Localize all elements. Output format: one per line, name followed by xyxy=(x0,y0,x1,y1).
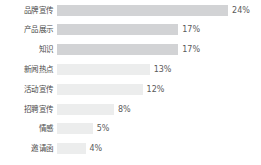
bar-track xyxy=(57,104,114,115)
bar-value-label: 5% xyxy=(97,123,110,134)
bar-track xyxy=(57,24,178,35)
bar-value-label: 24% xyxy=(232,5,250,16)
bar-value-label: 17% xyxy=(182,44,200,55)
bar-value-label: 8% xyxy=(118,104,131,115)
bar-value-label: 12% xyxy=(147,84,165,95)
bar-track xyxy=(57,143,86,154)
category-label: 品牌宣传 xyxy=(0,5,53,17)
category-label: 产品展示 xyxy=(0,24,53,36)
category-label: 知识 xyxy=(0,44,53,56)
bar-track xyxy=(57,5,228,16)
bar-row: 情感5% xyxy=(0,123,261,135)
bar-track xyxy=(57,44,178,55)
bar-row: 产品展示17% xyxy=(0,24,261,36)
bar-row: 新闻热点13% xyxy=(0,64,261,76)
category-label: 情感 xyxy=(0,123,53,135)
bar xyxy=(57,84,143,95)
bar xyxy=(57,143,86,154)
bar-row: 知识17% xyxy=(0,44,261,56)
bar-row: 邀请函4% xyxy=(0,143,261,155)
category-label: 邀请函 xyxy=(0,143,53,155)
bar xyxy=(57,104,114,115)
bar-value-label: 4% xyxy=(90,143,103,154)
bar xyxy=(57,123,93,134)
bar xyxy=(57,44,178,55)
bar-row: 品牌宣传24% xyxy=(0,5,261,17)
bar-row: 活动宣传12% xyxy=(0,84,261,96)
bar-track xyxy=(57,84,143,95)
bar xyxy=(57,64,150,75)
horizontal-bar-chart: 品牌宣传24%产品展示17%知识17%新闻热点13%活动宣传12%招聘宣传8%情… xyxy=(0,0,261,165)
bar xyxy=(57,5,228,16)
bar-row: 招聘宣传8% xyxy=(0,104,261,116)
category-label: 招聘宣传 xyxy=(0,104,53,116)
bar-track xyxy=(57,64,150,75)
bar xyxy=(57,24,178,35)
category-label: 活动宣传 xyxy=(0,84,53,96)
bar-value-label: 17% xyxy=(182,24,200,35)
bar-track xyxy=(57,123,93,134)
category-label: 新闻热点 xyxy=(0,64,53,76)
bar-value-label: 13% xyxy=(154,64,172,75)
